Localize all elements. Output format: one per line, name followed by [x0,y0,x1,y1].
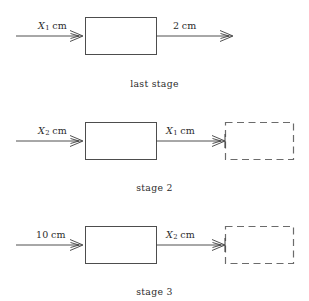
diagram-root: X1cm 2cm last stage X2cm X1cm stage 2 10… [0,0,309,301]
stage-2-input-label: X2cm [38,126,67,137]
stage-1-input-unit: cm [50,20,67,31]
stage-2-input-subscript: 2 [45,129,50,137]
diagram-canvas [0,0,309,301]
stage-2-input-unit: cm [50,125,67,136]
stage-3-input-label: 10cm [36,230,66,240]
stage-3-placeholder-box [226,227,294,264]
stage-2-input-symbol: X [38,125,45,136]
stage-1-process-box [86,18,157,55]
stage-3-output-unit: cm [178,229,195,240]
stage-3-input-symbol: 10 [36,229,49,240]
stage-1-input-label: X1cm [38,21,67,32]
stage-1-output-unit: cm [179,20,196,31]
stage-1-input-symbol: X [38,20,45,31]
stage-2-output-unit: cm [178,125,195,136]
stage-2-output-label: X1cm [166,126,195,137]
stage-3-output-symbol: X [166,229,173,240]
stage-3-caption: stage 3 [0,286,309,297]
stage-2-placeholder-box [226,123,294,160]
stage-3-output-subscript: 2 [173,233,178,241]
stage-2-output-symbol: X [166,125,173,136]
stage-1-caption: last stage [0,78,309,89]
stage-3-process-box [86,227,157,264]
stage-3-output-label: X2cm [166,230,195,241]
stage-2-caption: stage 2 [0,182,309,193]
stage-2-output-subscript: 1 [173,129,178,137]
stage-1-output-label: 2cm [173,21,196,31]
stage-3-input-unit: cm [49,229,66,240]
stage-1-input-subscript: 1 [45,24,50,32]
stage-2-process-box [86,123,157,160]
